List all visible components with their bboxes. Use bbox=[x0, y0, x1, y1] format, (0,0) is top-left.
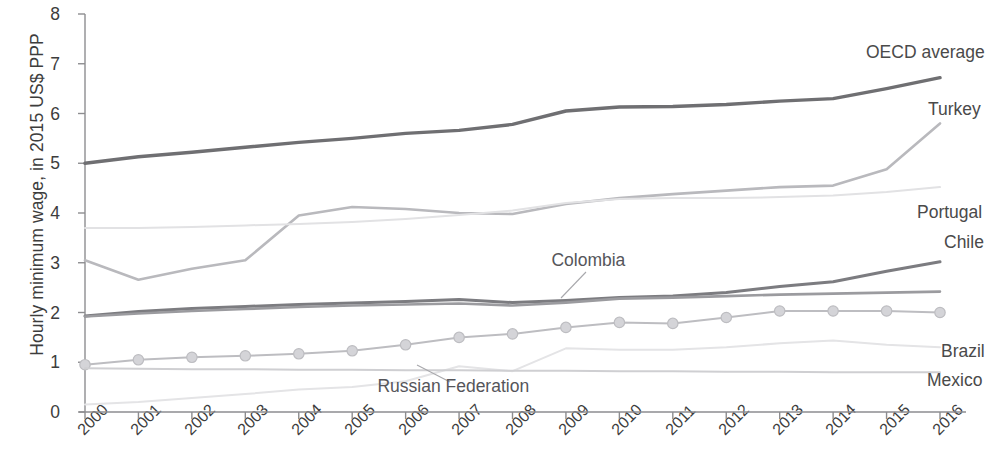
series-label-colombia: Colombia bbox=[551, 250, 625, 271]
annotation-leader-colombia bbox=[561, 272, 586, 298]
series-marker-brazil bbox=[721, 312, 731, 322]
series-line-mexico bbox=[85, 368, 940, 372]
series-line-oecd-average bbox=[85, 78, 940, 164]
series-marker-brazil bbox=[614, 317, 624, 327]
series-marker-brazil bbox=[828, 306, 838, 316]
series-label-russian-federation: Russian Federation bbox=[377, 376, 529, 397]
series-label-chile: Chile bbox=[944, 232, 984, 253]
series-label-turkey: Turkey bbox=[928, 99, 981, 120]
series-marker-brazil bbox=[454, 332, 464, 342]
series-line-turkey bbox=[85, 123, 940, 279]
series-marker-brazil bbox=[133, 355, 143, 365]
series-marker-brazil bbox=[668, 318, 678, 328]
series-marker-brazil bbox=[240, 351, 250, 361]
series-line-chile bbox=[85, 262, 940, 316]
line-chart-minimum-wage: Hourly minimum wage, in 2015 US$ PPP 876… bbox=[0, 0, 997, 474]
series-marker-brazil bbox=[881, 306, 891, 316]
series-marker-brazil bbox=[187, 352, 197, 362]
series-marker-brazil bbox=[775, 306, 785, 316]
series-marker-brazil bbox=[400, 340, 410, 350]
series-marker-brazil bbox=[935, 307, 945, 317]
series-label-portugal: Portugal bbox=[917, 202, 982, 223]
series-marker-brazil bbox=[507, 329, 517, 339]
series-marker-brazil bbox=[347, 346, 357, 356]
series-label-mexico: Mexico bbox=[927, 370, 982, 391]
plot-area bbox=[0, 0, 997, 474]
series-label-oecd-average: OECD average bbox=[866, 42, 985, 63]
series-marker-brazil bbox=[294, 349, 304, 359]
series-label-brazil: Brazil bbox=[941, 341, 985, 362]
series-line-portugal bbox=[85, 187, 940, 228]
series-marker-brazil bbox=[561, 322, 571, 332]
